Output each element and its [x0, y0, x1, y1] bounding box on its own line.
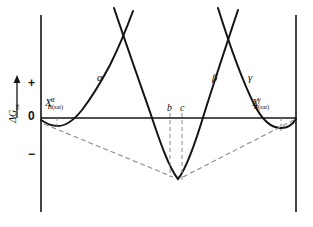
- y-axis-label-main: ΔG: [7, 110, 18, 123]
- y-tick-plus: +: [28, 77, 35, 89]
- y-tick-minus: −: [28, 148, 35, 160]
- label-x-b-sat-gamma: XγB(sat): [252, 97, 269, 108]
- free-energy-composition-diagram: ΔGm + 0 − α β γ b c XαB(sat) XγB(sat): [0, 0, 313, 227]
- y-axis-label: ΔGm: [7, 86, 18, 142]
- x-b-sat-alpha-subscript: B(sat): [48, 103, 63, 110]
- plot-canvas: [0, 0, 313, 227]
- curve-gamma: [218, 8, 296, 128]
- curve-label-beta: β: [212, 72, 217, 83]
- y-axis-caption-group: ΔGm: [2, 78, 26, 162]
- x-b-sat-gamma-subscript: B(sat): [254, 103, 269, 110]
- common-tangent-left: [44, 124, 173, 177]
- y-axis-label-subscript: m: [13, 104, 21, 109]
- point-label-b: b: [167, 103, 172, 113]
- label-x-b-sat-alpha: XαB(sat): [45, 97, 63, 108]
- point-label-c: c: [180, 103, 184, 113]
- y-tick-zero: 0: [28, 110, 35, 122]
- curve-label-alpha: α: [97, 72, 103, 83]
- curve-label-gamma: γ: [248, 72, 252, 83]
- curve-beta: [114, 8, 238, 179]
